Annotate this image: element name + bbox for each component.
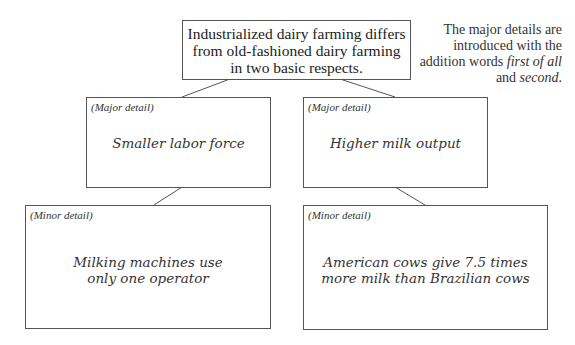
major-detail-box-2: (Major detail) Higher milk output — [303, 97, 488, 188]
side-note: The major details are introduced with th… — [412, 22, 562, 86]
main-idea-box: Industrialized dairy farming differs fro… — [182, 20, 411, 80]
minor-detail-text: American cows give 7.5 times more milk t… — [304, 254, 547, 286]
minor-detail-line: Milking machines use — [26, 254, 270, 270]
major-detail-tag: (Major detail) — [308, 101, 371, 113]
main-idea-text: Industrialized dairy farming differs fro… — [187, 25, 406, 76]
side-note-period: . — [559, 70, 563, 85]
major-detail-tag: (Major detail) — [91, 101, 154, 113]
minor-detail-box-2: (Minor detail) American cows give 7.5 ti… — [303, 205, 548, 330]
minor-detail-line: more milk than Brazilian cows — [304, 270, 547, 286]
side-note-term-first-of-all: first of all — [507, 54, 562, 69]
minor-detail-tag: (Minor detail) — [30, 209, 93, 221]
minor-detail-box-1: (Minor detail) Milking machines use only… — [25, 205, 271, 329]
side-note-text-and: and — [496, 70, 520, 85]
minor-detail-tag: (Minor detail) — [308, 209, 371, 221]
major-detail-text: Higher milk output — [304, 135, 487, 151]
major-detail-box-1: (Major detail) Smaller labor force — [86, 97, 271, 188]
major-detail-text: Smaller labor force — [87, 135, 270, 151]
minor-detail-text: Milking machines use only one operator — [26, 254, 270, 286]
side-note-term-second: second — [520, 70, 559, 85]
minor-detail-line: only one operator — [26, 270, 270, 286]
minor-detail-line: American cows give 7.5 times — [304, 254, 547, 270]
